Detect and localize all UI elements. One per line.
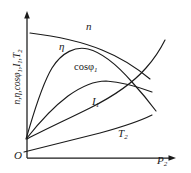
curve-label-i1: I1 xyxy=(92,96,99,107)
x-axis-label: P2 xyxy=(157,155,167,166)
y-axis-label-cosphi: cosφ xyxy=(12,72,22,90)
y-axis-label-i-sub: 1 xyxy=(16,60,23,63)
curve-label-n: n xyxy=(86,21,92,32)
curve-label-cosphi1-text: cosφ xyxy=(74,61,94,72)
origin-label: O xyxy=(14,150,22,161)
figure-canvas xyxy=(0,0,191,173)
y-axis-label-t-sub: 2 xyxy=(16,49,23,52)
y-axis-label-sep-2: , xyxy=(12,90,22,92)
y-axis-label-i: I xyxy=(12,64,22,67)
x-axis-arrowhead xyxy=(169,155,177,161)
curve-label-n-text: n xyxy=(86,20,92,32)
curve-t2 xyxy=(24,115,152,152)
y-axis-label-eta: η xyxy=(12,93,22,98)
y-axis-label-n: n xyxy=(12,100,22,105)
curve-label-i1-sub: 1 xyxy=(96,101,100,109)
curve-label-cosphi1: cosφ1 xyxy=(74,62,98,73)
x-axis-label-text: P xyxy=(157,154,164,166)
x-axis-label-sub: 2 xyxy=(164,160,168,168)
curve-label-cosphi1-sub: 1 xyxy=(94,66,98,74)
motor-characteristic-curve-figure: n,η,cosφ1,I1,T2 n η cosφ1 I1 T2 O P2 xyxy=(0,0,191,173)
curve-label-eta: η xyxy=(59,41,64,52)
curve-label-t2-sub: 2 xyxy=(124,133,128,141)
origin-label-text: O xyxy=(14,149,22,161)
curve-label-eta-text: η xyxy=(59,40,64,52)
y-axis-label-sep-1: , xyxy=(12,97,22,99)
curve-label-t2: T2 xyxy=(118,128,128,139)
y-axis-label-t: T xyxy=(12,53,22,58)
y-axis-label-cosphi-sub: 1 xyxy=(16,69,23,72)
y-axis-arrowhead xyxy=(24,11,30,19)
y-axis-label: n,η,cosφ1,I1,T2 xyxy=(12,29,22,125)
